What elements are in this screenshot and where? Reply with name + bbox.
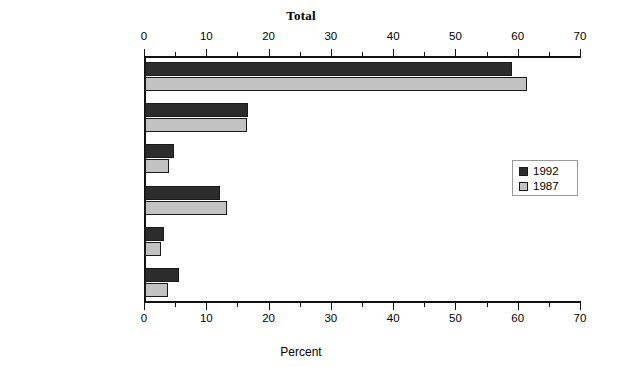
axis-tick-top-45 <box>424 52 425 56</box>
bar-1992-2 <box>145 144 174 158</box>
axis-tick-top-30 <box>331 49 332 56</box>
bar-1987-1 <box>145 118 247 132</box>
bar-1992-4 <box>145 227 164 241</box>
axis-tick-label-top-60: 60 <box>503 30 533 42</box>
legend-item-1992: 1992 <box>519 165 577 178</box>
x-axis-label-text: Percent <box>280 345 321 359</box>
axis-tick-top-20 <box>269 49 270 56</box>
legend-swatch-icon-1987 <box>519 182 528 191</box>
axis-tick-label-bottom-50: 50 <box>440 312 470 324</box>
axis-tick-label-top-30: 30 <box>316 30 346 42</box>
top-axis-line <box>144 56 581 58</box>
axis-tick-bot-15 <box>237 303 238 307</box>
axis-tick-bot-50 <box>455 303 456 310</box>
axis-tick-label-top-50: 50 <box>440 30 470 42</box>
axis-tick-label-bottom-30: 30 <box>316 312 346 324</box>
bar-1992-1 <box>145 103 248 117</box>
axis-tick-top-5 <box>175 52 176 56</box>
axis-tick-bot-60 <box>518 303 519 310</box>
axis-tick-label-top-10: 10 <box>191 30 221 42</box>
axis-tick-label-bottom-20: 20 <box>254 312 284 324</box>
axis-tick-bot-45 <box>424 303 425 307</box>
axis-tick-top-60 <box>518 49 519 56</box>
axis-tick-top-40 <box>393 49 394 56</box>
legend-label-1992: 1992 <box>533 166 559 178</box>
axis-tick-bot-5 <box>175 303 176 307</box>
chart-title-text: Total <box>286 8 315 23</box>
bar-1992-3 <box>145 186 220 200</box>
axis-tick-bot-25 <box>300 303 301 307</box>
axis-tick-label-top-20: 20 <box>254 30 284 42</box>
axis-tick-top-10 <box>206 49 207 56</box>
axis-tick-top-65 <box>549 52 550 56</box>
axis-tick-bot-0 <box>144 303 145 310</box>
axis-tick-label-top-0: 0 <box>129 30 159 42</box>
legend-item-1987: 1987 <box>519 180 577 193</box>
x-axis-label: Percent <box>0 345 622 359</box>
legend-swatch-icon-1992 <box>519 167 528 176</box>
axis-tick-bot-65 <box>549 303 550 307</box>
axis-tick-label-bottom-70: 70 <box>565 312 595 324</box>
axis-tick-label-top-40: 40 <box>378 30 408 42</box>
axis-tick-top-25 <box>300 52 301 56</box>
axis-tick-bot-20 <box>269 303 270 310</box>
bar-chart: Total 001010202030304040505060607070Teac… <box>0 0 622 367</box>
axis-tick-bot-35 <box>362 303 363 307</box>
axis-tick-bot-30 <box>331 303 332 310</box>
axis-tick-top-70 <box>580 49 581 56</box>
axis-tick-top-15 <box>237 52 238 56</box>
bar-1992-5 <box>145 268 179 282</box>
axis-tick-bot-70 <box>580 303 581 310</box>
axis-tick-top-35 <box>362 52 363 56</box>
bar-1987-4 <box>145 242 161 256</box>
axis-tick-top-50 <box>455 49 456 56</box>
axis-tick-bot-55 <box>487 303 488 307</box>
bar-1987-2 <box>145 159 169 173</box>
bar-1987-3 <box>145 201 227 215</box>
axis-tick-top-55 <box>487 52 488 56</box>
axis-tick-label-bottom-0: 0 <box>129 312 159 324</box>
y-axis-line <box>144 56 146 303</box>
bar-1992-0 <box>145 62 512 76</box>
axis-tick-label-bottom-40: 40 <box>378 312 408 324</box>
axis-tick-top-0 <box>144 49 145 56</box>
axis-tick-label-bottom-10: 10 <box>191 312 221 324</box>
legend: 1992 1987 <box>512 160 578 196</box>
bar-1987-0 <box>145 77 527 91</box>
legend-label-1987: 1987 <box>533 181 559 193</box>
axis-tick-label-top-70: 70 <box>565 30 595 42</box>
axis-tick-bot-10 <box>206 303 207 310</box>
bar-1987-5 <box>145 283 168 297</box>
chart-title: Total <box>0 8 622 24</box>
axis-tick-label-bottom-60: 60 <box>503 312 533 324</box>
axis-tick-bot-40 <box>393 303 394 310</box>
